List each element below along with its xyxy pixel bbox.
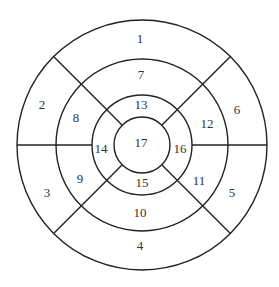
segment-label-15: 15 bbox=[136, 175, 149, 190]
segment-label-6: 6 bbox=[234, 102, 241, 117]
segment-label-7: 7 bbox=[138, 67, 145, 82]
segment-label-11: 11 bbox=[193, 173, 206, 188]
segment-label-16: 16 bbox=[174, 141, 188, 156]
segment-label-3: 3 bbox=[44, 185, 51, 200]
segment-label-1: 1 bbox=[137, 31, 144, 46]
segment-label-5: 5 bbox=[229, 185, 236, 200]
bullseye-diagram: 1234567891011121314151617 bbox=[0, 0, 279, 287]
segment-label-12: 12 bbox=[201, 116, 214, 131]
segment-label-2: 2 bbox=[39, 97, 46, 112]
divider-lower-left-apical bbox=[107, 165, 123, 181]
segment-label-14: 14 bbox=[95, 141, 109, 156]
segment-label-10: 10 bbox=[134, 205, 147, 220]
segment-label-13: 13 bbox=[135, 97, 148, 112]
segment-label-9: 9 bbox=[77, 171, 84, 186]
divider-lower-left-outer bbox=[54, 180, 107, 233]
segment-label-8: 8 bbox=[73, 110, 80, 125]
divider-lower-right-apical bbox=[162, 165, 178, 181]
segment-label-17: 17 bbox=[135, 135, 149, 150]
divider-upper-left-apical bbox=[107, 110, 123, 126]
segment-labels: 1234567891011121314151617 bbox=[39, 31, 241, 253]
bullseye-svg: 1234567891011121314151617 bbox=[0, 0, 279, 287]
divider-lower-right-outer bbox=[177, 180, 230, 233]
segment-label-4: 4 bbox=[137, 238, 144, 253]
divider-upper-right-apical bbox=[162, 110, 178, 126]
divider-upper-right-outer bbox=[177, 57, 230, 110]
divider-upper-left-outer bbox=[54, 57, 107, 110]
